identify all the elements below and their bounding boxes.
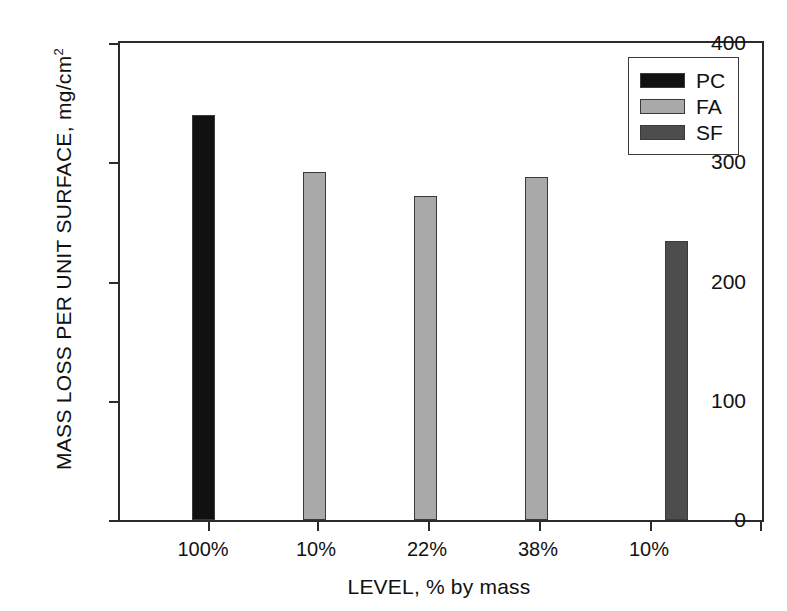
legend-item-sf: SF [640,119,725,145]
x-tick-0 [208,520,210,531]
bar-pc-100 [192,115,215,521]
legend-label-sf: SF [696,122,723,143]
y-tick-label-100: 100 [711,389,746,413]
x-tick-label-3: 38% [518,538,558,561]
y-tick-label-200: 200 [711,270,746,294]
legend-label-fa: FA [696,96,722,117]
x-tick-label-0: 100% [177,538,228,561]
y-tick-label-400: 400 [711,31,746,55]
x-tick-5 [760,520,762,531]
y-axis-title-superscript: 2 [51,48,66,56]
x-tick-3 [539,520,541,531]
legend-swatch-pc [640,73,685,88]
x-tick-label-2: 22% [407,538,447,561]
x-axis-title: LEVEL, % by mass [118,575,760,599]
x-tick-label-1: 10% [296,538,336,561]
y-tick-200 [109,282,120,284]
y-tick-0 [109,520,120,522]
y-tick-300 [109,162,120,164]
legend-item-pc: PC [640,67,725,93]
bar-fa-38 [525,177,548,520]
y-tick-label-0: 0 [734,508,746,532]
bar-chart-figure: MASS LOSS PER UNIT SURFACE, mg/cm2 400 3… [0,0,787,611]
bar-fa-10 [303,172,326,520]
y-tick-400 [109,43,120,45]
legend-item-fa: FA [640,93,725,119]
y-axis-title: MASS LOSS PER UNIT SURFACE, mg/cm2 [52,9,76,509]
legend-swatch-sf [640,125,685,140]
y-tick-100 [109,401,120,403]
bar-sf-10 [665,241,688,520]
legend-swatch-fa [640,99,685,114]
x-tick-1 [317,520,319,531]
bar-fa-22 [414,196,437,520]
x-tick-4 [650,520,652,531]
legend-label-pc: PC [696,70,725,91]
x-tick-label-4: 10% [629,538,669,561]
x-tick-2 [428,520,430,531]
y-axis-title-text: MASS LOSS PER UNIT SURFACE, mg/cm [52,56,75,470]
legend: PC FA SF [628,57,739,155]
plot-area: 400 300 200 100 0 100% 10% 22% 38% 10% [118,41,764,522]
